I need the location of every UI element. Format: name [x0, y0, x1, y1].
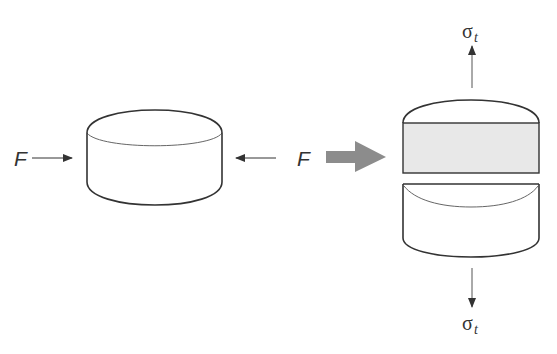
upper-fragment-top-arc: [403, 100, 539, 123]
intact-cylinder: [87, 110, 222, 205]
stress-top-subscript: t: [474, 30, 479, 45]
upper-fragment-fracture-face: [403, 123, 539, 173]
force-right-label: F: [297, 147, 311, 170]
cylinder-bottom-arc: [87, 182, 222, 205]
stress-top-symbol: σ: [462, 20, 473, 42]
force-right: F: [236, 147, 311, 170]
stress-bottom: σ t: [462, 268, 479, 337]
upper-fragment: [403, 100, 539, 173]
cylinder-top-ellipse-front: [87, 133, 222, 146]
lower-fragment: [403, 184, 539, 257]
force-left-label: F: [14, 147, 28, 170]
transition-arrow: [326, 141, 386, 172]
lower-fragment-bottom-arc: [403, 238, 539, 257]
lower-fragment-inner-arc: [404, 186, 538, 207]
stress-bottom-subscript: t: [474, 322, 479, 337]
force-left: F: [14, 147, 72, 170]
diagram-canvas: F F σ t σ t: [0, 0, 557, 354]
stress-bottom-symbol: σ: [462, 312, 473, 334]
cylinder-top-arc: [87, 110, 222, 133]
stress-top: σ t: [462, 20, 479, 88]
